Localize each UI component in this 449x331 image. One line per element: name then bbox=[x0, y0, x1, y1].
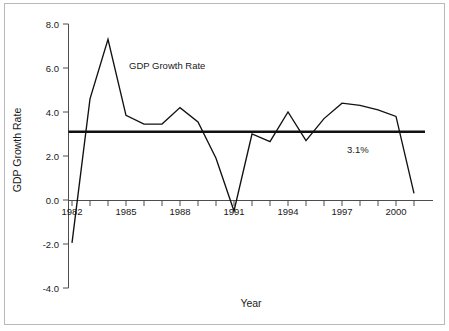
y-tick-label-2: 2.0 bbox=[46, 151, 59, 162]
x-tick-label-1994: 1994 bbox=[277, 206, 298, 217]
x-tick-label-2000: 2000 bbox=[385, 206, 406, 217]
y-tick-label-0: 0.0 bbox=[46, 195, 59, 206]
y-tick-label-4: 4.0 bbox=[46, 107, 59, 118]
x-tick-label-1997: 1997 bbox=[331, 206, 352, 217]
y-tick-labels: 8.0 6.0 4.0 2.0 0.0 -2.0 -4.0 bbox=[43, 19, 59, 294]
reference-annotation-label: 3.1% bbox=[347, 144, 369, 155]
y-tick-label-neg4: -4.0 bbox=[43, 283, 59, 294]
x-tick-label-1985: 1985 bbox=[115, 206, 136, 217]
x-tick-label-1988: 1988 bbox=[169, 206, 190, 217]
x-axis-title: Year bbox=[240, 297, 262, 309]
gdp-growth-rate-line-chart: 8.0 6.0 4.0 2.0 0.0 -2.0 -4.0 bbox=[0, 0, 449, 331]
y-tick-label-6: 6.0 bbox=[46, 63, 59, 74]
x-tick-label-1982: 1982 bbox=[61, 206, 82, 217]
chart-figure: 8.0 6.0 4.0 2.0 0.0 -2.0 -4.0 bbox=[0, 0, 449, 331]
series-annotation-label: GDP Growth Rate bbox=[129, 60, 205, 71]
y-tick-label-neg2: -2.0 bbox=[43, 239, 59, 250]
y-tick-label-8: 8.0 bbox=[46, 19, 59, 30]
y-axis bbox=[63, 24, 69, 288]
y-axis-title: GDP Growth Rate bbox=[11, 108, 23, 193]
